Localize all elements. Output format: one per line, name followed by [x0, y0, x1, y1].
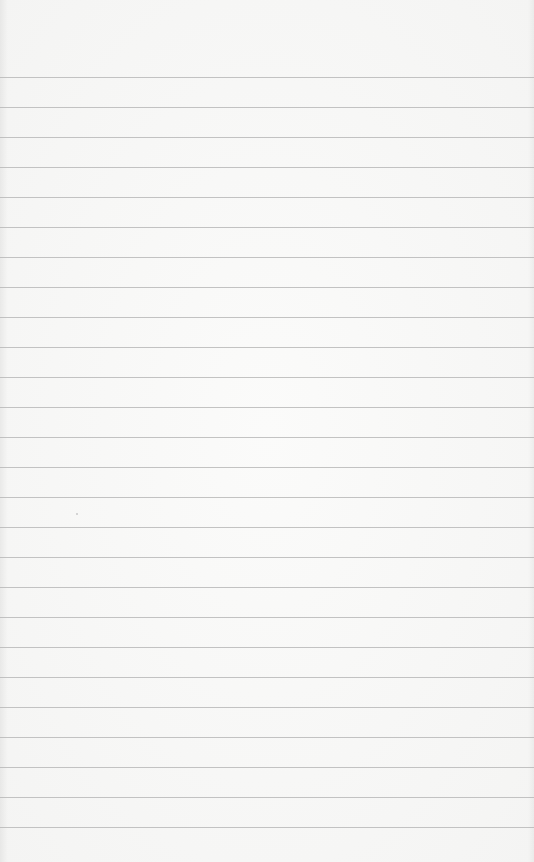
ruled-line [0, 437, 534, 438]
ruled-line [0, 167, 534, 168]
ruled-line [0, 797, 534, 798]
ruled-line [0, 287, 534, 288]
ruled-line [0, 587, 534, 588]
ruled-line [0, 107, 534, 108]
ruled-line [0, 827, 534, 828]
ruled-line [0, 527, 534, 528]
paper-speck [76, 513, 78, 515]
ruled-line [0, 617, 534, 618]
ruled-line [0, 347, 534, 348]
ruled-line [0, 677, 534, 678]
ruled-line [0, 257, 534, 258]
ruled-line [0, 137, 534, 138]
ruled-line [0, 557, 534, 558]
lined-paper-sheet [0, 0, 534, 862]
ruled-line [0, 767, 534, 768]
ruled-line [0, 317, 534, 318]
ruled-line [0, 227, 534, 228]
ruled-line [0, 467, 534, 468]
ruled-line [0, 377, 534, 378]
ruled-line [0, 77, 534, 78]
ruled-line [0, 407, 534, 408]
ruled-line [0, 737, 534, 738]
ruled-line [0, 707, 534, 708]
ruled-line [0, 647, 534, 648]
ruled-line [0, 197, 534, 198]
ruled-line [0, 497, 534, 498]
